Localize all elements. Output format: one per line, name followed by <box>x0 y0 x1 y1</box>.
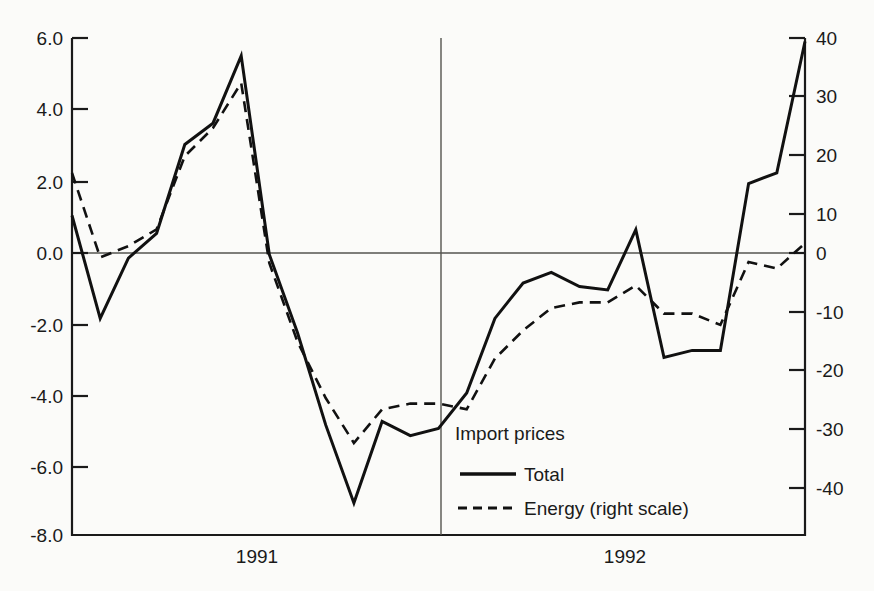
left-axis-labels: 6.0 4.0 2.0 0.0 -2.0 -4.0 -6.0 -8.0 <box>30 28 63 546</box>
right-tick-label: -30 <box>816 419 843 440</box>
left-tick-label: 0.0 <box>37 243 63 264</box>
legend-label-total: Total <box>524 464 564 485</box>
chart-legend: Import prices Total Energy (right scale) <box>455 423 689 519</box>
left-axis-ticks <box>72 109 88 467</box>
left-tick-label: -8.0 <box>30 525 63 546</box>
x-tick-label-1991: 1991 <box>236 546 278 567</box>
right-axis-ticks <box>789 96 805 488</box>
plot-frame <box>72 38 805 535</box>
right-tick-label: 0 <box>816 243 827 264</box>
chart-container: 6.0 4.0 2.0 0.0 -2.0 -4.0 -6.0 -8.0 40 3… <box>0 0 874 591</box>
left-tick-label: -6.0 <box>30 457 63 478</box>
right-tick-label: 10 <box>816 204 837 225</box>
right-tick-label: -10 <box>816 302 843 323</box>
series-line-energy <box>72 83 805 443</box>
legend-title: Import prices <box>455 423 565 444</box>
left-tick-label: 4.0 <box>37 99 63 120</box>
legend-label-energy: Energy (right scale) <box>524 498 689 519</box>
left-tick-label: -2.0 <box>30 315 63 336</box>
x-axis-labels: 1991 1992 <box>236 546 646 567</box>
left-tick-label: 2.0 <box>37 172 63 193</box>
series-line-total <box>72 42 805 504</box>
left-tick-label: -4.0 <box>30 386 63 407</box>
right-tick-label: -40 <box>816 478 843 499</box>
right-tick-label: -20 <box>816 360 843 381</box>
right-axis-labels: 40 30 20 10 0 -10 -20 -30 -40 <box>816 28 843 499</box>
left-tick-label: 6.0 <box>37 28 63 49</box>
axis-spines <box>72 38 805 535</box>
right-tick-label: 20 <box>816 145 837 166</box>
x-tick-label-1992: 1992 <box>604 546 646 567</box>
right-tick-label: 30 <box>816 86 837 107</box>
right-tick-label: 40 <box>816 28 837 49</box>
line-chart: 6.0 4.0 2.0 0.0 -2.0 -4.0 -6.0 -8.0 40 3… <box>0 0 874 591</box>
